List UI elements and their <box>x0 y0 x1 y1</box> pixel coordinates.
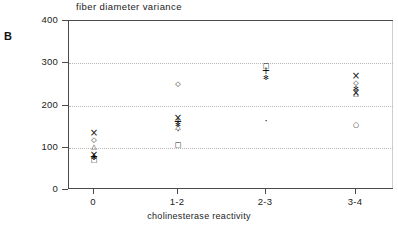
data-point-triangle-icon: △ <box>352 90 361 99</box>
plot-right-edge <box>392 21 393 188</box>
x-tick-label-1: 1-2 <box>157 196 197 207</box>
data-point-asterisk-icon: ✻ <box>90 154 99 163</box>
data-point-x-icon: × <box>90 128 99 137</box>
figure-panel-b: B fiber diameter variance ×◇△×+✻□◇×+✻△·□… <box>0 0 398 230</box>
y-tick-mark-400 <box>62 20 68 21</box>
data-point-circle-icon: ○ <box>352 121 361 130</box>
plot-area: ×◇△×+✻□◇×+✻△·□□+✻·×◇✻×△○ <box>68 20 393 189</box>
data-point-diamond-icon: ◇ <box>352 79 361 88</box>
x-tick-label-3: 3-4 <box>335 196 375 207</box>
data-point-asterisk-icon: ✻ <box>174 121 183 130</box>
data-point-square-icon: □ <box>174 141 183 150</box>
data-point-dot-icon: · <box>262 116 271 125</box>
x-tick-mark-2 <box>265 189 266 194</box>
y-tick-label-0: 0 <box>24 183 58 194</box>
panel-label: B <box>4 30 12 42</box>
data-point-dot-icon: · <box>174 126 183 135</box>
plot-title: fiber diameter variance <box>76 1 182 12</box>
gridline-300 <box>69 63 393 64</box>
x-tick-mark-3 <box>355 189 356 194</box>
y-tick-label-200: 200 <box>24 99 58 110</box>
data-point-asterisk-icon: ✻ <box>352 85 361 94</box>
x-tick-mark-1 <box>177 189 178 194</box>
y-tick-label-400: 400 <box>24 14 58 25</box>
y-tick-mark-300 <box>62 62 68 63</box>
y-tick-mark-100 <box>62 147 68 148</box>
data-point-x-icon: × <box>90 150 99 159</box>
data-point-x-icon: × <box>352 71 361 80</box>
y-tick-mark-0 <box>62 189 68 190</box>
gridline-100 <box>69 148 393 149</box>
x-tick-label-2: 2-3 <box>245 196 285 207</box>
data-point-plus-icon: + <box>174 117 183 126</box>
y-tick-label-100: 100 <box>24 141 58 152</box>
data-point-x-icon: × <box>352 88 361 97</box>
data-point-plus-icon: + <box>90 152 99 161</box>
data-point-triangle-icon: △ <box>174 123 183 132</box>
data-point-diamond-icon: ◇ <box>174 80 183 89</box>
x-tick-mark-0 <box>93 189 94 194</box>
data-point-diamond-icon: ◇ <box>90 136 99 145</box>
x-axis-title: cholinesterase reactivity <box>0 211 398 221</box>
y-tick-label-300: 300 <box>24 56 58 67</box>
x-tick-label-0: 0 <box>73 196 113 207</box>
data-point-x-icon: × <box>174 113 183 122</box>
data-point-square-icon: □ <box>90 156 99 165</box>
data-point-asterisk-icon: ✻ <box>262 74 271 83</box>
y-tick-mark-200 <box>62 105 68 106</box>
data-point-plus-icon: + <box>262 66 271 75</box>
gridline-200 <box>69 106 393 107</box>
